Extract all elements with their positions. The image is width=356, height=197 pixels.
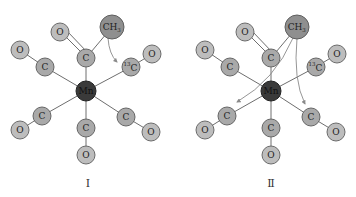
svg-text:C: C <box>224 111 231 121</box>
svg-text:C: C <box>83 123 90 133</box>
svg-text:3: 3 <box>117 27 121 33</box>
svg-text:O: O <box>147 127 154 137</box>
oxygen-atom: O <box>328 45 346 63</box>
carbon-atom: C <box>302 108 320 126</box>
svg-text:C: C <box>316 63 323 73</box>
oxygen-atom: O <box>143 45 161 63</box>
carbon-atom: C <box>33 107 51 125</box>
svg-text:O: O <box>16 45 23 55</box>
svg-text:C: C <box>227 62 234 72</box>
svg-text:Mn: Mn <box>263 86 278 96</box>
svg-text:C: C <box>268 53 275 63</box>
carbon-atom: C <box>262 119 280 137</box>
svg-text:O: O <box>56 27 63 37</box>
oxygen-atom: O <box>327 123 345 141</box>
acyl-carbon-atom: C <box>77 49 95 67</box>
svg-text:3: 3 <box>302 27 306 33</box>
svg-text:O: O <box>201 125 208 135</box>
oxygen-atom: O <box>236 23 254 41</box>
structure-2: O CH 3 C O C 13 C O Mn <box>196 15 346 189</box>
oxygen-atom: O <box>196 121 214 139</box>
svg-text:O: O <box>16 125 23 135</box>
migration-arrow <box>108 38 117 62</box>
svg-text:C: C <box>131 63 138 73</box>
manganese-atom: Mn <box>261 81 281 101</box>
isotope-carbon-atom: 13 C <box>307 58 325 76</box>
carbon-atom: C <box>36 58 54 76</box>
svg-text:CH: CH <box>103 22 118 32</box>
svg-text:O: O <box>201 45 208 55</box>
svg-text:C: C <box>83 53 90 63</box>
svg-text:O: O <box>241 27 248 37</box>
oxygen-atom: O <box>51 23 69 41</box>
svg-text:CH: CH <box>288 22 303 32</box>
carbon-atom: C <box>218 107 236 125</box>
oxygen-atom: O <box>196 41 214 59</box>
structure-label: Ⅱ <box>267 177 274 189</box>
svg-text:O: O <box>82 150 89 160</box>
svg-text:C: C <box>39 111 46 121</box>
svg-text:O: O <box>148 49 155 59</box>
manganese-atom: Mn <box>76 81 96 101</box>
svg-text:C: C <box>308 112 315 122</box>
carbon-atom: C <box>221 58 239 76</box>
carbon-atom: C <box>77 119 95 137</box>
structure-label: Ⅰ <box>86 177 90 189</box>
oxygen-atom: O <box>11 41 29 59</box>
svg-text:O: O <box>333 49 340 59</box>
methyl-group: CH 3 <box>100 15 124 39</box>
methyl-group: CH 3 <box>285 15 309 39</box>
isotope-carbon-atom: 13 C <box>122 58 140 76</box>
oxygen-atom: O <box>11 121 29 139</box>
structure-1: O CH 3 C O C 13 C O Mn <box>11 15 161 189</box>
acyl-carbon-atom: C <box>262 49 280 67</box>
svg-text:C: C <box>42 62 49 72</box>
svg-text:O: O <box>332 127 339 137</box>
carbon-atom: C <box>117 108 135 126</box>
svg-text:C: C <box>268 123 275 133</box>
oxygen-atom: O <box>262 146 280 164</box>
svg-text:Mn: Mn <box>78 86 93 96</box>
svg-text:C: C <box>123 112 130 122</box>
oxygen-atom: O <box>77 146 95 164</box>
oxygen-atom: O <box>142 123 160 141</box>
svg-text:O: O <box>267 150 274 160</box>
migration-arrow-right <box>296 38 305 104</box>
mechanism-diagram: O CH 3 C O C 13 C O Mn <box>0 0 356 197</box>
